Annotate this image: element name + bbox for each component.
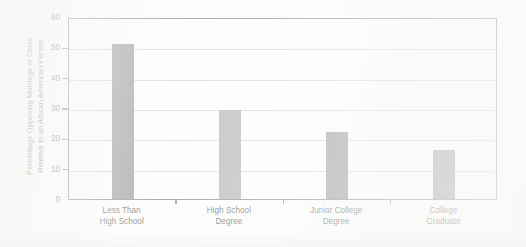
bar <box>219 110 241 199</box>
y-axis-tick-label: 10 <box>38 165 60 174</box>
x-axis-category-line: Graduate <box>390 217 497 228</box>
y-axis-title-line-1: Percentage Opposing Marriage of Close <box>24 37 35 174</box>
bar <box>433 150 455 199</box>
y-axis-tick-label: 20 <box>38 134 60 143</box>
x-axis-category-line: Degree <box>283 217 390 228</box>
bar-chart-figure: Percentage Opposing Marriage of Close Re… <box>0 0 526 247</box>
bar <box>112 44 134 199</box>
x-axis-category-line: Less Than <box>68 206 175 217</box>
y-axis-tick-label: 40 <box>38 74 60 83</box>
x-axis-category-label: High SchoolDegree <box>175 206 282 227</box>
x-axis-category-label: Junior CollegeDegree <box>283 206 390 227</box>
scan-smudge-overlay <box>0 231 526 247</box>
x-axis-category-line: High School <box>175 206 282 217</box>
y-axis-tick-labels: 0102030405060 <box>36 0 60 247</box>
x-axis-category-line: College <box>390 206 497 217</box>
y-axis-tick-label: 60 <box>38 13 60 22</box>
y-axis-tick-label: 0 <box>38 195 60 204</box>
y-axis-tick-label: 30 <box>38 104 60 113</box>
x-axis-category-line: Junior College <box>283 206 390 217</box>
y-axis-tick-label: 50 <box>38 43 60 52</box>
x-axis-category-label: Less ThanHigh School <box>68 206 175 227</box>
x-axis-category-line: High School <box>68 217 175 228</box>
x-axis-tick-mark <box>175 200 176 204</box>
x-axis-tick-mark <box>390 200 391 204</box>
x-axis-category-line: Degree <box>175 217 282 228</box>
bar <box>326 132 348 199</box>
x-axis-category-label: CollegeGraduate <box>390 206 497 227</box>
x-axis-tick-mark <box>283 200 284 204</box>
plot-area <box>68 18 497 200</box>
